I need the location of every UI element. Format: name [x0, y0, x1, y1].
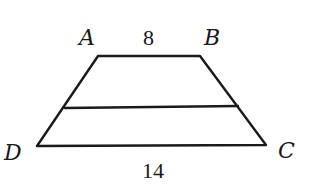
bottom-base-length: 14 — [142, 158, 164, 183]
vertex-label-a: A — [77, 25, 95, 50]
trapezoid-abcd — [37, 56, 266, 146]
trapezoid-diagram: A B C D 8 14 — [0, 0, 317, 190]
vertex-label-c: C — [278, 138, 295, 163]
vertex-label-d: D — [3, 140, 22, 165]
vertex-label-b: B — [203, 25, 220, 50]
midline-segment — [65, 106, 238, 108]
top-base-length: 8 — [143, 25, 154, 50]
